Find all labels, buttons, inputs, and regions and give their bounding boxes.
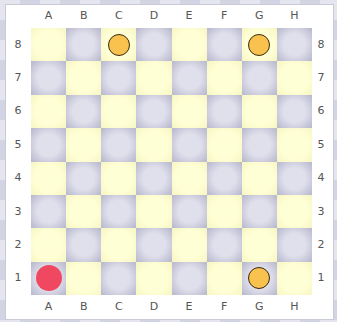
square-g8[interactable] (242, 28, 277, 61)
square-a6[interactable] (31, 95, 66, 128)
square-d1[interactable] (136, 262, 171, 295)
square-a3[interactable] (31, 195, 66, 228)
square-e8[interactable] (172, 28, 207, 61)
rank-label-left: 2 (8, 239, 28, 251)
square-c3[interactable] (101, 195, 136, 228)
square-c4[interactable] (101, 162, 136, 195)
square-a5[interactable] (31, 128, 66, 161)
file-label-top: F (214, 10, 234, 22)
rank-label-right: 3 (311, 206, 331, 218)
red-piece[interactable] (36, 265, 62, 291)
file-label-bottom: H (284, 301, 304, 313)
square-b2[interactable] (66, 228, 101, 261)
file-label-top: A (39, 10, 59, 22)
square-e5[interactable] (172, 128, 207, 161)
file-label-top: G (249, 10, 269, 22)
square-d4[interactable] (136, 162, 171, 195)
square-h6[interactable] (277, 95, 312, 128)
file-label-bottom: F (214, 301, 234, 313)
square-f8[interactable] (207, 28, 242, 61)
file-label-top: D (144, 10, 164, 22)
file-label-bottom: B (74, 301, 94, 313)
square-e7[interactable] (172, 61, 207, 94)
square-b7[interactable] (66, 61, 101, 94)
file-label-bottom: E (179, 301, 199, 313)
file-label-bottom: G (249, 301, 269, 313)
square-g4[interactable] (242, 162, 277, 195)
square-g2[interactable] (242, 228, 277, 261)
square-e6[interactable] (172, 95, 207, 128)
square-b8[interactable] (66, 28, 101, 61)
square-h7[interactable] (277, 61, 312, 94)
rank-label-right: 6 (311, 105, 331, 117)
square-e3[interactable] (172, 195, 207, 228)
square-b4[interactable] (66, 162, 101, 195)
square-h3[interactable] (277, 195, 312, 228)
file-label-bottom: A (39, 301, 59, 313)
square-d2[interactable] (136, 228, 171, 261)
square-c1[interactable] (101, 262, 136, 295)
square-d8[interactable] (136, 28, 171, 61)
rank-label-left: 7 (8, 72, 28, 84)
square-f7[interactable] (207, 61, 242, 94)
square-d7[interactable] (136, 61, 171, 94)
file-label-top: B (74, 10, 94, 22)
square-e2[interactable] (172, 228, 207, 261)
square-a2[interactable] (31, 228, 66, 261)
square-g6[interactable] (242, 95, 277, 128)
square-c5[interactable] (101, 128, 136, 161)
rank-label-left: 4 (8, 172, 28, 184)
square-h4[interactable] (277, 162, 312, 195)
square-f6[interactable] (207, 95, 242, 128)
game-board[interactable] (31, 28, 312, 295)
square-g5[interactable] (242, 128, 277, 161)
rank-label-right: 5 (311, 139, 331, 151)
square-h5[interactable] (277, 128, 312, 161)
square-g1[interactable] (242, 262, 277, 295)
square-e1[interactable] (172, 262, 207, 295)
square-c6[interactable] (101, 95, 136, 128)
square-h2[interactable] (277, 228, 312, 261)
rank-label-left: 5 (8, 139, 28, 151)
square-d3[interactable] (136, 195, 171, 228)
rank-label-right: 7 (311, 72, 331, 84)
rank-label-right: 4 (311, 172, 331, 184)
square-a4[interactable] (31, 162, 66, 195)
square-a7[interactable] (31, 61, 66, 94)
square-c2[interactable] (101, 228, 136, 261)
rank-label-left: 3 (8, 206, 28, 218)
orange-piece[interactable] (248, 267, 270, 289)
square-f1[interactable] (207, 262, 242, 295)
file-label-top: H (284, 10, 304, 22)
file-label-top: E (179, 10, 199, 22)
rank-label-right: 1 (311, 272, 331, 284)
square-d5[interactable] (136, 128, 171, 161)
file-label-bottom: D (144, 301, 164, 313)
orange-piece[interactable] (248, 34, 270, 56)
square-b5[interactable] (66, 128, 101, 161)
square-e4[interactable] (172, 162, 207, 195)
rank-label-left: 6 (8, 105, 28, 117)
rank-label-right: 8 (311, 39, 331, 51)
square-g7[interactable] (242, 61, 277, 94)
square-b1[interactable] (66, 262, 101, 295)
square-f2[interactable] (207, 228, 242, 261)
square-b6[interactable] (66, 95, 101, 128)
square-a1[interactable] (31, 262, 66, 295)
square-h1[interactable] (277, 262, 312, 295)
square-f3[interactable] (207, 195, 242, 228)
file-label-bottom: C (109, 301, 129, 313)
square-c7[interactable] (101, 61, 136, 94)
square-a8[interactable] (31, 28, 66, 61)
square-c8[interactable] (101, 28, 136, 61)
square-f4[interactable] (207, 162, 242, 195)
square-h8[interactable] (277, 28, 312, 61)
square-b3[interactable] (66, 195, 101, 228)
rank-label-left: 8 (8, 39, 28, 51)
square-d6[interactable] (136, 95, 171, 128)
rank-label-left: 1 (8, 272, 28, 284)
rank-label-right: 2 (311, 239, 331, 251)
square-f5[interactable] (207, 128, 242, 161)
square-g3[interactable] (242, 195, 277, 228)
orange-piece[interactable] (108, 34, 130, 56)
